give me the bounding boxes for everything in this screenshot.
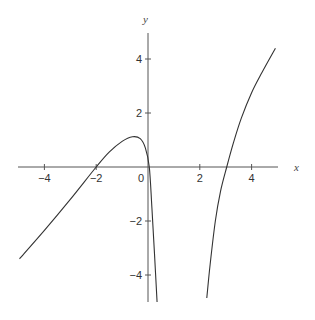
y-tick-label: −4 [129,269,142,281]
x-tick-label: −2 [90,172,103,184]
right-branch-curve [207,48,276,298]
plot-curves [20,48,276,302]
x-axis-label: x [293,161,299,173]
y-axis-label: y [142,13,148,25]
function-plot: −4−2024 −4−224 x y [0,0,315,320]
y-tick-label: 2 [136,107,142,119]
x-tick-label: −4 [38,172,51,184]
x-tick-label: 0 [138,172,144,184]
y-tick-label: −2 [129,215,142,227]
x-tick-label: 4 [249,172,255,184]
y-tick-label: 4 [136,53,142,65]
x-tick-label: 2 [197,172,203,184]
